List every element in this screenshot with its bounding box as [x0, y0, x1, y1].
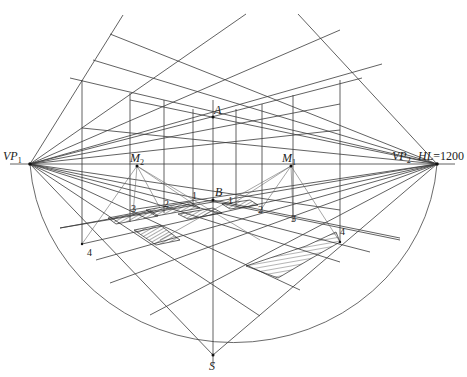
mark-left-3: 3 — [131, 203, 136, 214]
perspective-diagram: VP1 VP2 HL=1200 M2 M1 A B S 4 3 2 1 1 2 … — [0, 0, 467, 377]
hatch-patch-5 — [134, 225, 180, 245]
hatch-patch-6 — [246, 232, 340, 278]
mark-right-3: 3 — [291, 213, 296, 224]
s-label: S — [209, 359, 215, 373]
wall-boundary-lines — [30, 14, 437, 355]
mark-left-1: 1 — [192, 190, 197, 201]
horizon-label: HL=1200 — [417, 149, 464, 163]
mark-right-4: 4 — [340, 226, 345, 237]
mark-left-4: 4 — [87, 247, 92, 258]
vp1-label: VP1 — [3, 149, 22, 165]
mark-left-2: 2 — [164, 198, 169, 209]
vp2-label: VP2 — [392, 149, 411, 165]
ceiling-grid-vp2 — [70, 34, 437, 164]
s-point — [212, 354, 215, 357]
mark-right-2: 2 — [258, 204, 263, 215]
mark-right-1: 1 — [228, 195, 233, 206]
m1-label: M1 — [281, 151, 296, 167]
vp1-point — [28, 162, 32, 166]
b-label: B — [215, 185, 223, 199]
m2-label: M2 — [129, 151, 144, 167]
a-label: A — [213, 103, 222, 117]
